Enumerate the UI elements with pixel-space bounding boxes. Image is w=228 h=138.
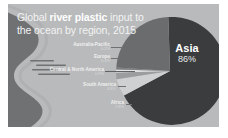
legend-label-europe: Europe 0.3% xyxy=(60,54,110,64)
legend-percent-australia-pacific: 0.2% xyxy=(56,47,110,52)
legend-label-south-america: South America 4.8% xyxy=(60,82,116,92)
title-line1-bold: river plastic xyxy=(50,11,108,23)
legend-percent-europe: 0.3% xyxy=(60,59,110,64)
leader-line-central-north-america xyxy=(105,71,135,72)
leader-line-south-america xyxy=(118,86,126,87)
leader-line-africa xyxy=(126,104,132,105)
chart-panel: Global river plastic input to the ocean … xyxy=(8,4,219,127)
leader-line-europe xyxy=(111,58,121,59)
title-line2: the ocean by region, 2015 xyxy=(17,24,136,36)
legend-label-australia-pacific: Australia-Pacific 0.2% xyxy=(56,42,110,52)
legend-percent-africa: 7.8% xyxy=(80,105,124,110)
legend-percent-central-north-america: 0.9% xyxy=(38,72,104,77)
chart-title: Global river plastic input to the ocean … xyxy=(17,11,145,36)
infographic-figure: Global river plastic input to the ocean … xyxy=(0,0,228,138)
legend-percent-south-america: 4.8% xyxy=(60,87,116,92)
legend-label-central-north-america: Central & North America 0.9% xyxy=(38,67,104,77)
legend-label-africa: Africa 7.8% xyxy=(80,100,124,110)
title-line1-pre: Global xyxy=(17,11,50,23)
leader-line-australia-pacific xyxy=(111,47,123,48)
title-line1-post: input to xyxy=(107,11,143,23)
